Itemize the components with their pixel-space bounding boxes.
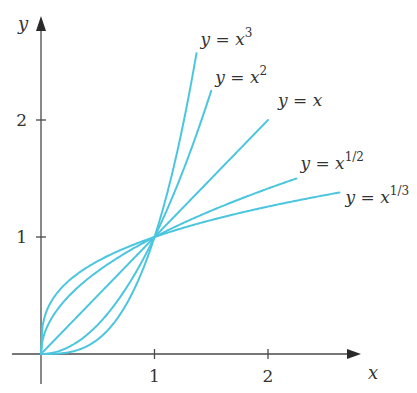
curve-label: y = x3 xyxy=(199,26,252,49)
x-tick-label: 2 xyxy=(263,366,274,386)
curve-label: y = x1/3 xyxy=(345,184,410,207)
curve-label: y = x2 xyxy=(214,64,267,87)
curve-5 xyxy=(41,193,340,355)
y-tick-label: 1 xyxy=(16,227,27,247)
curve-label: y = x xyxy=(277,90,323,110)
curve-label: y = x1/2 xyxy=(299,150,364,173)
curve-1 xyxy=(41,53,197,354)
curve-labels: y = x3y = x2y = xy = x1/2y = x1/3 xyxy=(199,26,409,206)
power-functions-chart: xy1212 y = x3y = x2y = xy = x1/2y = x1/3 xyxy=(0,0,417,393)
y-axis-label: y xyxy=(17,13,29,34)
x-tick-label: 1 xyxy=(149,366,160,386)
y-axis-arrow-icon xyxy=(36,16,46,31)
x-axis-arrow-icon xyxy=(347,349,361,359)
axes: xy1212 xyxy=(12,13,378,386)
x-axis-label: x xyxy=(368,362,378,383)
y-tick-label: 2 xyxy=(16,110,27,130)
